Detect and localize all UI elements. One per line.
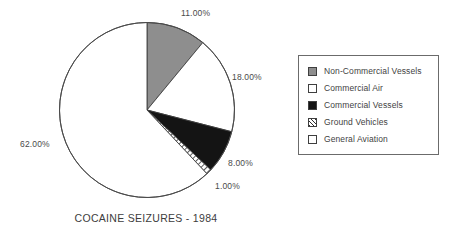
slice-value-label-general-aviation: 62.00% — [20, 139, 50, 149]
legend-item[interactable]: General Aviation — [308, 131, 438, 148]
legend-item[interactable]: Non-Commercial Vessels — [308, 63, 438, 80]
legend-item[interactable]: Ground Vehicles — [308, 114, 438, 131]
white-square-swatch-icon — [308, 135, 317, 144]
chart-legend: Non-Commercial Vessels Commercial Air Co… — [298, 55, 439, 155]
slice-value-label-commercial-vessels: 8.00% — [228, 158, 253, 168]
pie-chart-figure: 11.00% 18.00% 8.00% 1.00% 62.00% COCAINE… — [0, 0, 460, 237]
black-square-swatch-icon — [308, 101, 317, 110]
legend-item-label: Ground Vehicles — [324, 118, 388, 127]
legend-item[interactable]: Commercial Air — [308, 80, 438, 97]
pie-svg — [0, 0, 292, 210]
slice-value-label-commercial-air: 18.00% — [232, 72, 262, 82]
gray-square-swatch-icon — [308, 67, 317, 76]
pie-plot-area: 11.00% 18.00% 8.00% 1.00% 62.00% — [0, 0, 292, 210]
legend-item-label: General Aviation — [324, 135, 388, 144]
legend-item-label: Non-Commercial Vessels — [324, 67, 422, 76]
hatched-square-swatch-icon — [308, 118, 317, 127]
pie-slice-group — [59, 22, 234, 197]
legend-item-label: Commercial Air — [324, 84, 383, 93]
chart-title: COCAINE SEIZURES - 1984 — [0, 212, 292, 224]
legend-item-label: Commercial Vessels — [324, 101, 403, 110]
slice-value-label-non-commercial-vessels: 11.00% — [181, 8, 210, 18]
legend-item[interactable]: Commercial Vessels — [308, 97, 438, 114]
white-square-swatch-icon — [308, 84, 317, 93]
slice-value-label-ground-vehicles: 1.00% — [215, 181, 240, 191]
